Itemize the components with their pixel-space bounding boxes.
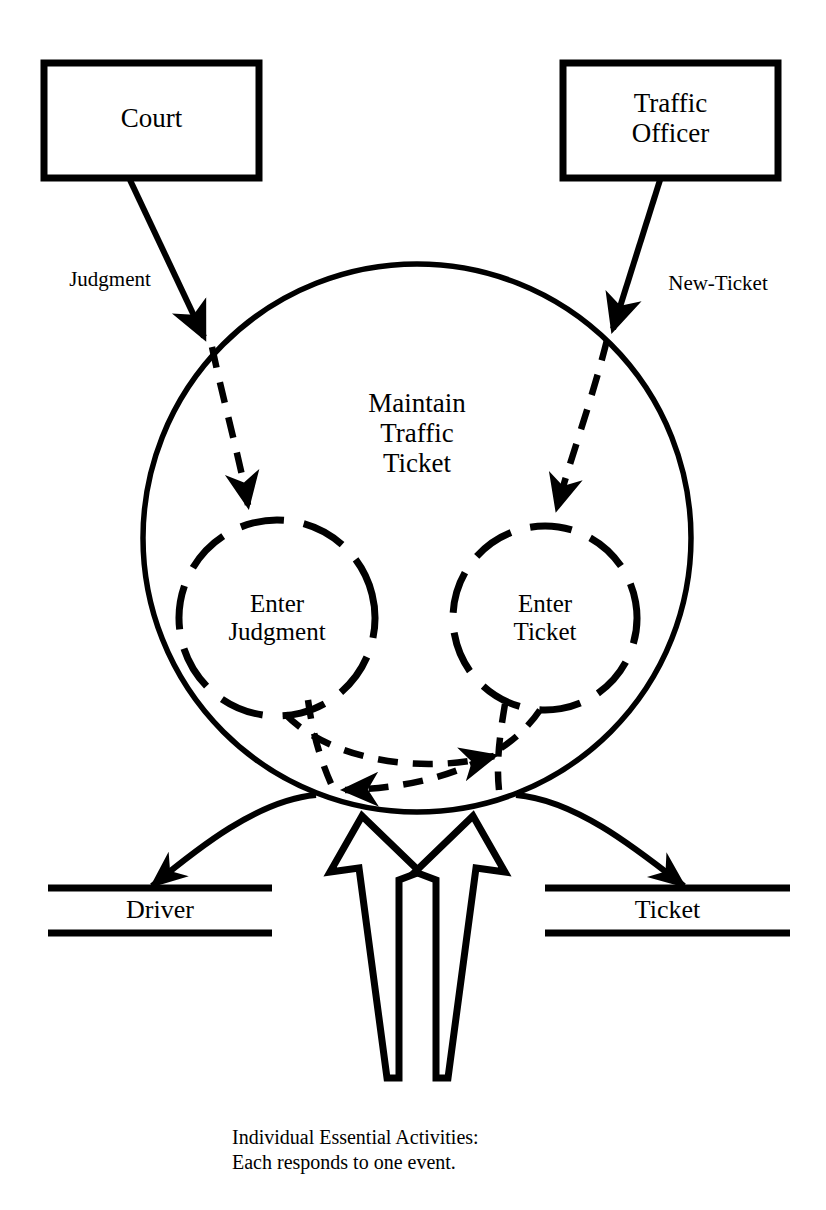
flow-to-ticket-line: [516, 795, 684, 886]
process-maintain-traffic-ticket-circle[interactable]: [143, 264, 691, 812]
process-enter-judgment-label: Enter Judgment: [167, 590, 387, 646]
data-store-ticket-label: Ticket: [545, 895, 790, 924]
flow-ticket-output-dashed: [345, 710, 540, 790]
diagram-caption-line-1: Individual Essential Activities:: [232, 1125, 632, 1149]
data-store-driver-label: Driver: [48, 895, 272, 924]
process-maintain-traffic-ticket-label: Maintain Traffic Ticket: [307, 388, 527, 479]
flow-new-ticket-inner-line: [557, 340, 607, 508]
process-enter-ticket-label: Enter Ticket: [445, 590, 645, 646]
external-entity-court-label: Court: [44, 103, 259, 133]
external-entity-traffic-officer-label: Traffic Officer: [563, 88, 778, 148]
diagram-graphics: [0, 0, 826, 1210]
flow-judgment-inner-line: [212, 347, 248, 505]
diagram-canvas: Court Traffic Officer Judgment New-Ticke…: [0, 0, 826, 1210]
flow-new-ticket-label: New-Ticket: [633, 272, 803, 296]
flow-judgment-label: Judgment: [30, 268, 190, 292]
flow-judgment-line: [130, 180, 204, 337]
diagram-caption-line-2: Each responds to one event.: [232, 1150, 632, 1174]
annotation-arrow-left: [330, 816, 420, 1078]
annotation-arrow-right: [415, 816, 505, 1078]
flow-new-ticket-line: [613, 180, 660, 329]
flow-to-driver-line: [152, 795, 316, 886]
